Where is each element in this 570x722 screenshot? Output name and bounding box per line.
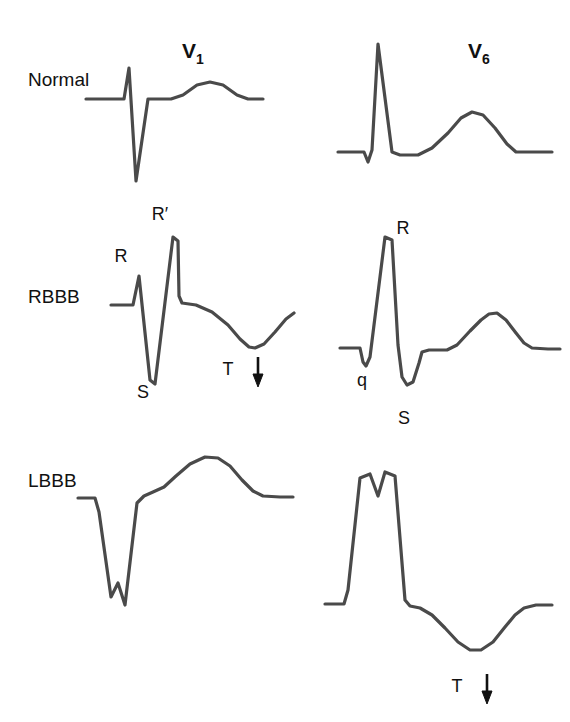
- annotation-rbbb-v6-q: q: [357, 370, 367, 390]
- row-label-lbbb: LBBB: [28, 470, 77, 491]
- waveform-normal-v6: [338, 44, 552, 162]
- waveform-traces: [78, 44, 560, 650]
- lead-header-v6: V6: [468, 39, 490, 67]
- lead-header-v6-letter: V: [468, 39, 482, 62]
- waveform-normal-v1: [86, 68, 263, 181]
- waveform-rbbb-v1: [111, 237, 294, 384]
- t-inversion-arrows: [253, 357, 492, 704]
- lead-header-v6-subscript: 6: [482, 51, 490, 67]
- waveform-lbbb-v6: [325, 472, 552, 650]
- annotation-rbbb-v6-r: R: [397, 218, 410, 238]
- lead-header-v1: V1: [182, 39, 204, 67]
- annotation-rbbb-v1-r: R: [115, 246, 128, 266]
- waveform-lbbb-v1: [78, 457, 293, 605]
- row-labels: Normal RBBB LBBB: [28, 69, 89, 491]
- annotation-rbbb-v1-s: S: [137, 382, 149, 402]
- row-label-rbbb: RBBB: [28, 286, 80, 307]
- annotation-rbbb-v1-r-prime: R′: [152, 204, 169, 224]
- lead-header-v1-letter: V: [182, 39, 196, 62]
- annotation-lbbb-v6-t: T: [452, 676, 463, 696]
- lead-headers: V1 V6: [182, 39, 490, 67]
- ecg-figure: V1 V6 Normal RBBB LBBB R R′ S T R q S: [0, 0, 570, 722]
- annotation-rbbb-v6-s: S: [398, 408, 410, 428]
- row-label-normal: Normal: [28, 69, 89, 90]
- arrow-down-icon-lbbb-v6: [482, 674, 492, 704]
- waveform-rbbb-v6: [340, 237, 560, 385]
- ecg-canvas: V1 V6 Normal RBBB LBBB R R′ S T R q S: [0, 0, 570, 722]
- lead-header-v1-subscript: 1: [196, 51, 204, 67]
- annotation-rbbb-v1-t: T: [223, 359, 234, 379]
- arrow-down-icon-rbbb-v1: [253, 357, 263, 387]
